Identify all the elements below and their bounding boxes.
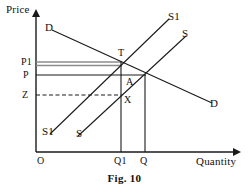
supply-curve-s1 xyxy=(50,19,169,134)
figure-container: Price Quantity O P1 P Z Q1 Q D D S1 S1 S… xyxy=(0,0,249,191)
demand-curve xyxy=(52,30,212,103)
price-tick-p1: P1 xyxy=(21,57,32,67)
y-axis-label: Price xyxy=(6,4,30,15)
price-tick-p: P xyxy=(23,70,29,80)
supply-s-label-lower: S xyxy=(76,128,82,139)
point-label-x: X xyxy=(124,95,131,105)
point-label-t: T xyxy=(118,48,124,58)
supply-s1-label-upper: S1 xyxy=(168,11,180,22)
supply-s1-label-lower: S1 xyxy=(42,126,54,137)
x-axis-label: Quantity xyxy=(196,156,236,167)
origin-label: O xyxy=(37,156,44,166)
price-tick-z: Z xyxy=(22,90,28,100)
demand-curve-label-lower: D xyxy=(210,98,218,109)
supply-s-label-upper: S xyxy=(182,28,188,39)
point-label-a: A xyxy=(126,77,133,87)
quantity-tick-q: Q xyxy=(140,156,147,166)
figure-caption: Fig. 10 xyxy=(0,172,249,184)
quantity-tick-q1: Q1 xyxy=(114,156,127,166)
demand-curve-label-upper: D xyxy=(45,22,53,33)
